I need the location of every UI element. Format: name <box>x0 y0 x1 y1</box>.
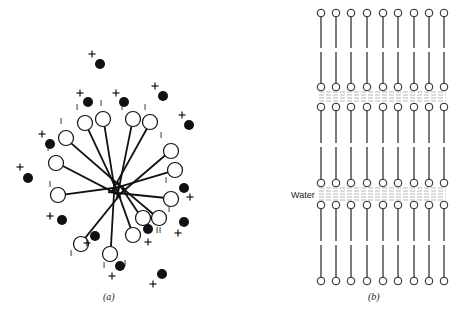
polar-head-icon <box>394 277 402 285</box>
polar-head-icon <box>332 9 340 17</box>
polar-head-icon <box>332 83 340 91</box>
polar-head-icon <box>440 9 448 17</box>
negative-charge-mark: I <box>49 179 52 189</box>
polar-head-icon <box>317 83 325 91</box>
polar-head-icon <box>425 179 433 187</box>
polar-head-icon <box>440 179 448 187</box>
polar-head-icon <box>363 201 371 209</box>
polar-head-icon <box>394 9 402 17</box>
lamellar-bilayer-panel <box>317 9 448 285</box>
negative-charge-mark: I <box>144 102 147 112</box>
negative-charge-mark: I <box>103 260 106 270</box>
polar-head-icon <box>363 9 371 17</box>
polar-head-icon <box>425 103 433 111</box>
polar-head-icon <box>394 179 402 187</box>
polar-head-icon <box>126 112 141 127</box>
polar-head-icon <box>379 9 387 17</box>
caption-a: (a) <box>103 291 115 303</box>
figure: IIIIIIIIIIIIIII (a) (b) Water <box>0 0 464 317</box>
polar-head-icon <box>347 103 355 111</box>
polar-head-icon <box>410 83 418 91</box>
polar-head-icon <box>347 179 355 187</box>
polar-head-icon <box>168 163 183 178</box>
polar-head-icon <box>332 103 340 111</box>
negative-charge-mark: I <box>168 204 171 214</box>
counter-ion-icon <box>115 261 125 271</box>
polar-head-icon <box>152 211 167 226</box>
polar-head-icon <box>394 83 402 91</box>
water-label: Water <box>291 190 315 200</box>
polar-head-icon <box>363 179 371 187</box>
polar-head-icon <box>410 103 418 111</box>
counter-ion-icon <box>179 183 189 193</box>
polar-head-icon <box>143 115 158 130</box>
polar-head-icon <box>317 179 325 187</box>
polar-head-icon <box>363 277 371 285</box>
counter-ion-icon <box>57 215 67 225</box>
negative-charge-mark: I <box>160 130 163 140</box>
polar-head-icon <box>440 201 448 209</box>
polar-head-icon <box>347 277 355 285</box>
polar-head-icon <box>410 9 418 17</box>
negative-charge-mark: I <box>70 248 73 258</box>
counter-ion-icon <box>45 139 55 149</box>
polar-head-icon <box>74 237 89 252</box>
polar-head-icon <box>317 103 325 111</box>
counter-ion-icon <box>23 173 33 183</box>
polar-head-icon <box>410 179 418 187</box>
polar-head-icon <box>410 201 418 209</box>
counter-ion-icon <box>119 97 129 107</box>
caption-b: (b) <box>368 291 380 303</box>
counter-ion-icon <box>179 217 189 227</box>
polar-head-icon <box>347 201 355 209</box>
polar-head-icon <box>96 112 111 127</box>
polar-head-icon <box>425 201 433 209</box>
polar-head-icon <box>126 228 141 243</box>
counter-ion-icon <box>90 231 100 241</box>
polar-head-icon <box>78 116 93 131</box>
counter-ion-icon <box>157 269 167 279</box>
polar-head-icon <box>332 179 340 187</box>
polar-head-icon <box>410 277 418 285</box>
polar-head-icon <box>379 277 387 285</box>
polar-head-icon <box>317 201 325 209</box>
polar-head-icon <box>317 9 325 17</box>
negative-charge-mark: I <box>100 98 103 108</box>
polar-head-icon <box>136 211 151 226</box>
polar-head-icon <box>59 131 74 146</box>
counter-ion-icon <box>95 59 105 69</box>
counter-ion-icon <box>83 97 93 107</box>
counter-ion-icon <box>143 224 153 234</box>
polar-head-icon <box>379 103 387 111</box>
polar-head-icon <box>440 277 448 285</box>
micelle-panel: IIIIIIIIIIIIIII <box>17 51 195 288</box>
polar-head-icon <box>379 179 387 187</box>
polar-head-icon <box>394 103 402 111</box>
polar-head-icon <box>425 83 433 91</box>
polar-head-icon <box>379 83 387 91</box>
polar-head-icon <box>347 9 355 17</box>
polar-head-icon <box>440 83 448 91</box>
polar-head-icon <box>440 103 448 111</box>
polar-head-icon <box>425 9 433 17</box>
polar-head-icon <box>347 83 355 91</box>
lipid-tail <box>117 126 132 199</box>
polar-head-icon <box>332 201 340 209</box>
negative-charge-mark: I <box>159 225 162 235</box>
polar-head-icon <box>332 277 340 285</box>
negative-charge-mark: I <box>76 102 79 112</box>
polar-head-icon <box>49 156 64 171</box>
polar-head-icon <box>363 83 371 91</box>
polar-head-icon <box>379 201 387 209</box>
counter-ion-icon <box>158 91 168 101</box>
polar-head-icon <box>317 277 325 285</box>
polar-head-icon <box>164 192 179 207</box>
polar-head-icon <box>394 201 402 209</box>
polar-head-icon <box>51 188 66 203</box>
negative-charge-mark: I <box>60 116 63 126</box>
polar-head-icon <box>164 144 179 159</box>
polar-head-icon <box>425 277 433 285</box>
negative-charge-mark: I <box>165 175 168 185</box>
counter-ion-icon <box>184 120 194 130</box>
polar-head-icon <box>363 103 371 111</box>
